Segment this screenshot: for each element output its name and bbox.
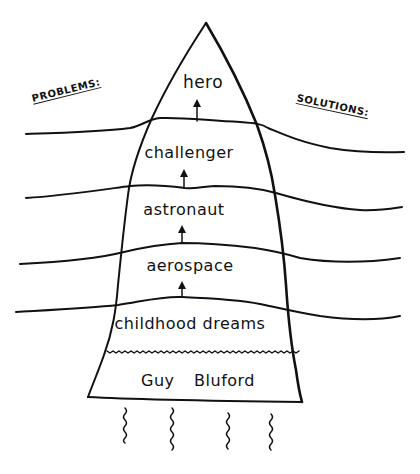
stage-label-guy-bluford: Guy Bluford (141, 371, 255, 390)
zigzag-separator (107, 351, 299, 353)
stage-label-astronaut: astronaut (143, 200, 224, 219)
stage-label-childhood-dreams: childhood dreams (115, 314, 266, 333)
stage-label-challenger: challenger (144, 143, 233, 162)
arrow-aerospace-to-astronaut (178, 225, 186, 243)
stage-label-hero: hero (183, 72, 223, 92)
stage-label-aerospace: aerospace (146, 256, 233, 275)
arrow-childhood-to-aerospace (178, 281, 186, 297)
flame-squiggle-4 (270, 414, 273, 450)
arrow-challenger-to-hero (193, 99, 201, 121)
flame-squiggle-3 (227, 413, 230, 449)
flame-squiggle-1 (124, 408, 127, 443)
flame-squiggle-2 (171, 408, 174, 450)
rocket-base (88, 397, 302, 402)
arrow-astronaut-to-challenger (180, 169, 188, 188)
